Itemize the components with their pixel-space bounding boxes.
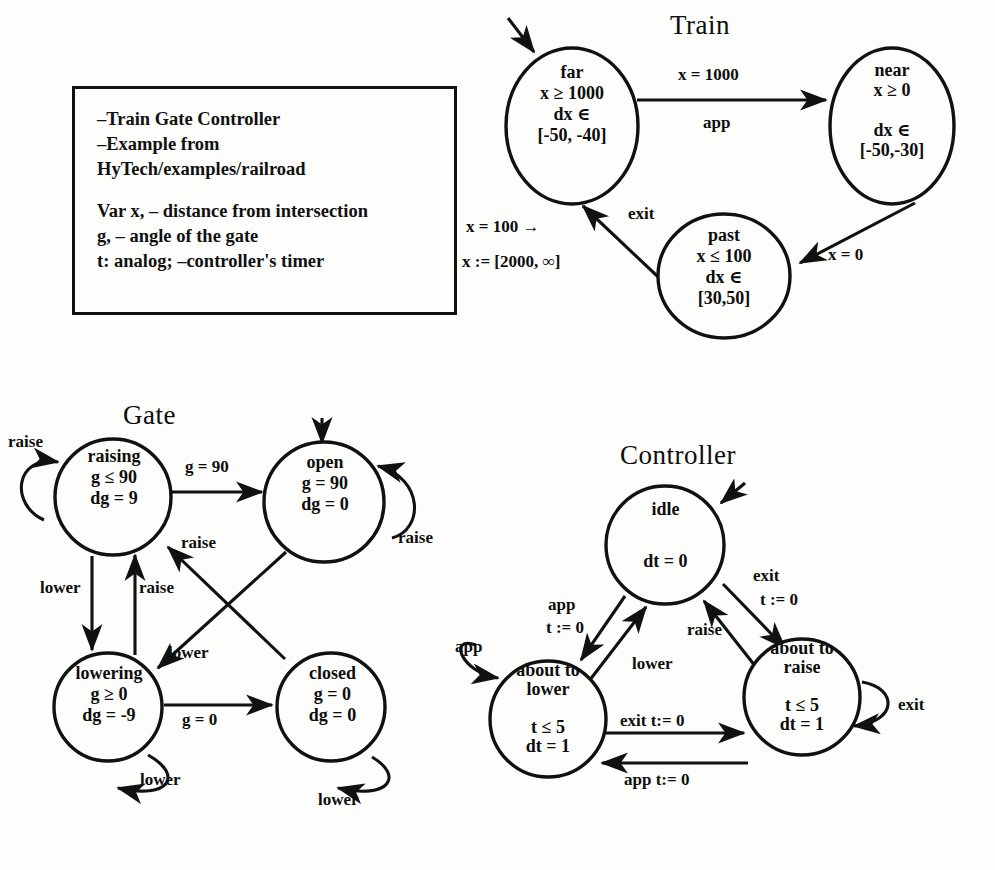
legend-line-1: –Train Gate Controller <box>97 107 454 132</box>
train-edge-near-past-guard-label: x = 0 <box>828 245 863 265</box>
controller-edge-idle-lower-assign-label: t := 0 <box>546 618 584 638</box>
gate-edge-raising-lowering-label: lower <box>40 578 81 598</box>
gate-selfloop-raising <box>21 461 58 520</box>
diagram-page: –Train Gate Controller –Example from HyT… <box>0 0 995 870</box>
gate-title: Gate <box>123 400 176 431</box>
controller-node-about-to-lower <box>490 661 606 777</box>
controller-selfloop-lower-label: app <box>455 637 482 657</box>
controller-edge-idle-raise-event-label: exit <box>753 566 779 586</box>
controller-edge-idle-lower <box>581 596 625 660</box>
controller-node-idle <box>606 486 724 604</box>
controller-edge-lower-idle-label: lower <box>632 654 673 674</box>
train-initial-arrow <box>508 18 534 52</box>
controller-node-about-to-raise <box>744 639 860 755</box>
gate-edge-closed-raising-label: raise <box>181 533 216 553</box>
legend-line-2: –Example from <box>97 132 454 157</box>
gate-selfloop-lowering-label: lower <box>140 770 181 790</box>
gate-selfloop-raising-label: raise <box>8 432 43 452</box>
train-title: Train <box>670 10 730 41</box>
legend-var-g: g, – angle of the gate <box>97 224 454 249</box>
controller-edge-idle-raise-assign-label: t := 0 <box>760 590 798 610</box>
legend-line-3: HyTech/examples/railroad <box>97 157 454 182</box>
legend-box: –Train Gate Controller –Example from HyT… <box>72 86 457 315</box>
gate-selfloop-open-label: raise <box>398 528 433 548</box>
gate-selfloop-closed <box>338 757 389 791</box>
controller-title: Controller <box>620 440 736 471</box>
gate-edge-lowering-raising-label: raise <box>139 578 174 598</box>
controller-edge-raise-lower-label: app t:= 0 <box>624 770 689 790</box>
controller-selfloop-raise-label: exit <box>898 695 924 715</box>
gate-node-closed <box>277 653 385 761</box>
train-edge-far-near-guard-label: x = 1000 <box>678 65 739 85</box>
train-edge-far-near-event-label: app <box>703 113 730 133</box>
controller-initial-arrow <box>721 483 745 503</box>
train-node-past <box>658 214 790 338</box>
gate-node-raising <box>55 439 171 555</box>
gate-node-open <box>264 442 384 562</box>
legend-var-t: t: analog; –controller's timer <box>97 249 454 274</box>
controller-edge-idle-lower-event-label: app <box>548 595 575 615</box>
gate-edge-raising-open-label: g = 90 <box>185 457 229 477</box>
train-edge-past-far-guard-label: x = 100 → <box>466 217 539 237</box>
legend-var-x: Var x, – distance from intersection <box>97 199 454 224</box>
legend-spacer <box>97 182 454 199</box>
gate-edge-open-lowering-label: lower <box>168 643 209 663</box>
gate-selfloop-closed-label: lower <box>318 790 359 810</box>
train-edge-past-far-assign-label: x := [2000, ∞] <box>462 252 560 272</box>
gate-node-lowering <box>54 653 162 761</box>
train-edge-past-far-event-label: exit <box>628 204 654 224</box>
gate-edge-lowering-closed-label: g = 0 <box>182 710 217 730</box>
controller-edge-raise-idle-label: raise <box>687 620 722 640</box>
controller-edge-lower-raise-label: exit t:= 0 <box>620 711 684 731</box>
train-node-far <box>506 48 638 204</box>
train-node-near <box>830 48 954 204</box>
